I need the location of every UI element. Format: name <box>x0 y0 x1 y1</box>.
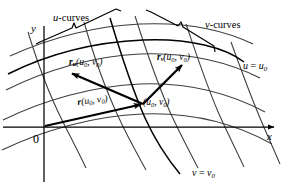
figure-canvas <box>0 0 285 186</box>
parametric-surface-figure: u-curves v-curves y x 0 ru(u0, v0) rv(u0… <box>0 0 285 186</box>
point-label: (u0, v0) <box>143 98 170 108</box>
origin-label: 0 <box>33 133 39 145</box>
v-curves-text: -curves <box>210 19 241 30</box>
v-curves-label: v-curves <box>205 20 241 31</box>
v-curve-4 <box>186 24 244 167</box>
v-curve-3 <box>135 16 198 168</box>
u-curves-text: -curves <box>58 12 89 23</box>
u-constant-label: u = u0 <box>243 61 267 72</box>
u-curve-4 <box>2 114 272 150</box>
y-axis-label: y <box>31 23 36 34</box>
tangent-vector-ru-label: ru(u0, v0) <box>69 58 103 68</box>
u-curves-label: u-curves <box>53 13 89 24</box>
x-axis-label: x <box>267 131 272 142</box>
tangent-vector-rv-label: rv(u0, v0) <box>157 53 190 63</box>
v-constant-label: v = v0 <box>192 168 215 179</box>
